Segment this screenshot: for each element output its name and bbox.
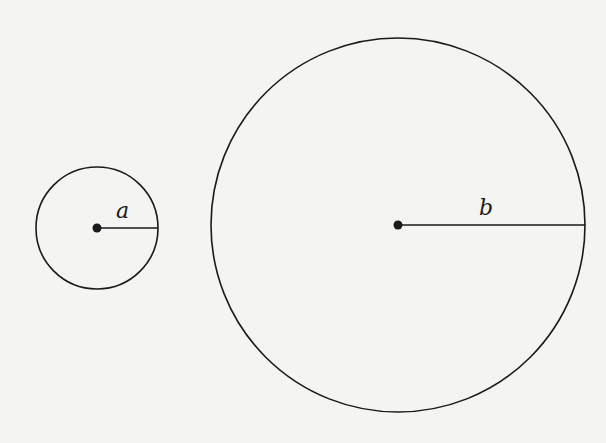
radius-label-b: b [479, 197, 493, 219]
diagram-canvas [0, 0, 606, 443]
radius-label-a: a [116, 200, 129, 222]
large-circle-center-dot [394, 221, 403, 230]
small-circle-center-dot [93, 224, 102, 233]
large-circle-group [211, 38, 585, 412]
small-circle-group [36, 167, 158, 289]
